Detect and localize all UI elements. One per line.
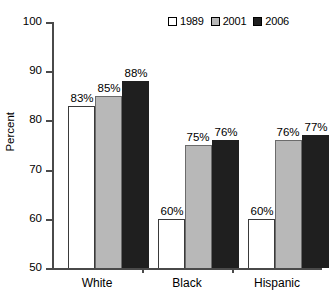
bar-group-white: 83% 85% 88% — [52, 22, 142, 268]
bar-white-2001[interactable] — [95, 96, 122, 268]
x-category-hispanic: Hispanic — [232, 277, 322, 289]
bar-black-1989[interactable] — [158, 219, 185, 268]
bar-group-black: 60% 75% 76% — [142, 22, 232, 268]
bar-group-hispanic: 60% 76% 77% — [232, 22, 322, 268]
y-tick-label-100: 100 — [12, 16, 42, 28]
bar-label-white-2001: 85% — [93, 83, 125, 95]
bar-label-white-1989: 83% — [66, 93, 98, 105]
y-tick-label-80: 80 — [12, 114, 42, 126]
bar-label-black-1989: 60% — [156, 206, 188, 218]
x-tick-divider-2 — [232, 268, 234, 273]
x-category-white: White — [52, 277, 142, 289]
plot-area: 83% 85% 88% 60% 75% 76% 60% 76% 77% — [52, 22, 322, 268]
y-tick-label-70: 70 — [12, 164, 42, 176]
x-axis-line — [52, 268, 322, 270]
bar-label-hispanic-1989: 60% — [246, 206, 278, 218]
y-axis-title: Percent — [5, 102, 17, 162]
bar-white-1989[interactable] — [68, 106, 95, 268]
x-tick-divider-1 — [142, 268, 144, 273]
bar-label-hispanic-2006: 77% — [300, 122, 332, 134]
y-tick-label-90: 90 — [12, 65, 42, 77]
y-tick-label-60: 60 — [12, 213, 42, 225]
bar-black-2001[interactable] — [185, 145, 212, 268]
bar-hispanic-1989[interactable] — [248, 219, 275, 268]
bar-hispanic-2006[interactable] — [302, 135, 329, 268]
y-tick-label-50: 50 — [12, 262, 42, 274]
bar-hispanic-2001[interactable] — [275, 140, 302, 268]
x-category-black: Black — [142, 277, 232, 289]
